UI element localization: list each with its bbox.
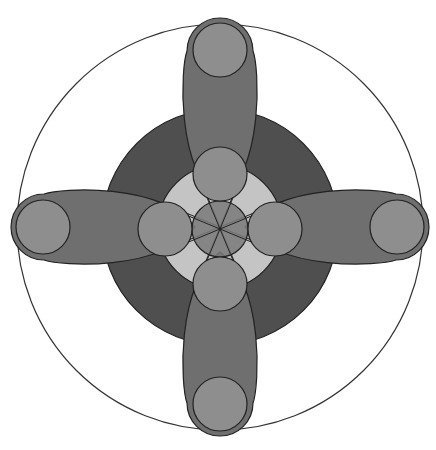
inner-small-circle-down [193, 257, 247, 311]
outer-small-circle-down [193, 377, 247, 431]
outer-small-circle-left [16, 200, 70, 254]
geometric-diagram [0, 0, 436, 450]
inner-small-circle-up [193, 147, 247, 201]
outer-small-circle-up [193, 23, 247, 77]
mandala-figure [0, 0, 436, 450]
outer-small-circle-right [370, 200, 424, 254]
inner-small-circle-right [248, 202, 302, 256]
inner-small-circle-left [138, 202, 192, 256]
